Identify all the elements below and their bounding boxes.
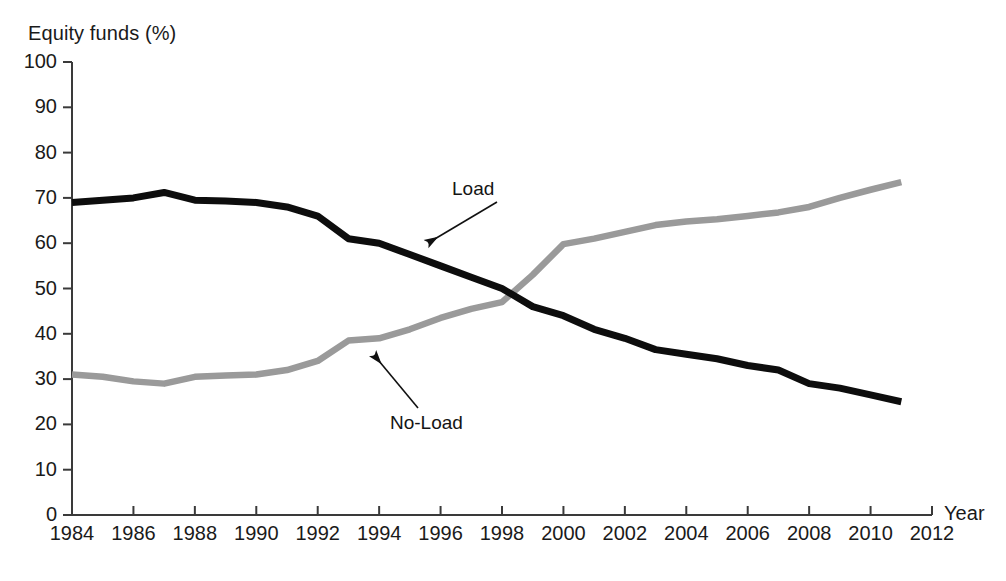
x-tick-label: 1994 xyxy=(347,522,411,545)
y-tick-label: 60 xyxy=(9,231,57,254)
x-tick-label: 2002 xyxy=(593,522,657,545)
x-tick-label: 1984 xyxy=(40,522,104,545)
y-tick-label: 50 xyxy=(9,277,57,300)
x-tick-label: 2004 xyxy=(654,522,718,545)
annotation-arrow-load xyxy=(428,202,497,243)
series-line-load xyxy=(72,192,901,401)
y-tick-label: 80 xyxy=(9,141,57,164)
x-tick-label: 2008 xyxy=(777,522,841,545)
x-tick-label: 1998 xyxy=(470,522,534,545)
x-tick-label: 2006 xyxy=(716,522,780,545)
x-tick-label: 2012 xyxy=(900,522,964,545)
y-tick-label: 20 xyxy=(9,412,57,435)
x-tick-label: 2010 xyxy=(839,522,903,545)
annotation-arrow-no-load xyxy=(374,355,418,408)
y-tick-label: 30 xyxy=(9,367,57,390)
series-paths xyxy=(72,182,901,402)
y-tick-label: 70 xyxy=(9,186,57,209)
y-tick-label: 10 xyxy=(9,458,57,481)
y-axis-ticks xyxy=(63,62,72,515)
chart-plot-area xyxy=(0,0,1006,581)
y-tick-label: 40 xyxy=(9,322,57,345)
x-tick-label: 2000 xyxy=(531,522,595,545)
y-tick-label: 90 xyxy=(9,95,57,118)
x-tick-label: 1990 xyxy=(224,522,288,545)
x-tick-label: 1988 xyxy=(163,522,227,545)
x-tick-label: 1992 xyxy=(286,522,350,545)
x-tick-label: 1986 xyxy=(101,522,165,545)
x-tick-label: 1996 xyxy=(409,522,473,545)
chart-container: Equity funds (%) Year Load No-Load 01020… xyxy=(0,0,1006,581)
x-axis-ticks xyxy=(72,506,932,515)
y-tick-label: 100 xyxy=(9,50,57,73)
